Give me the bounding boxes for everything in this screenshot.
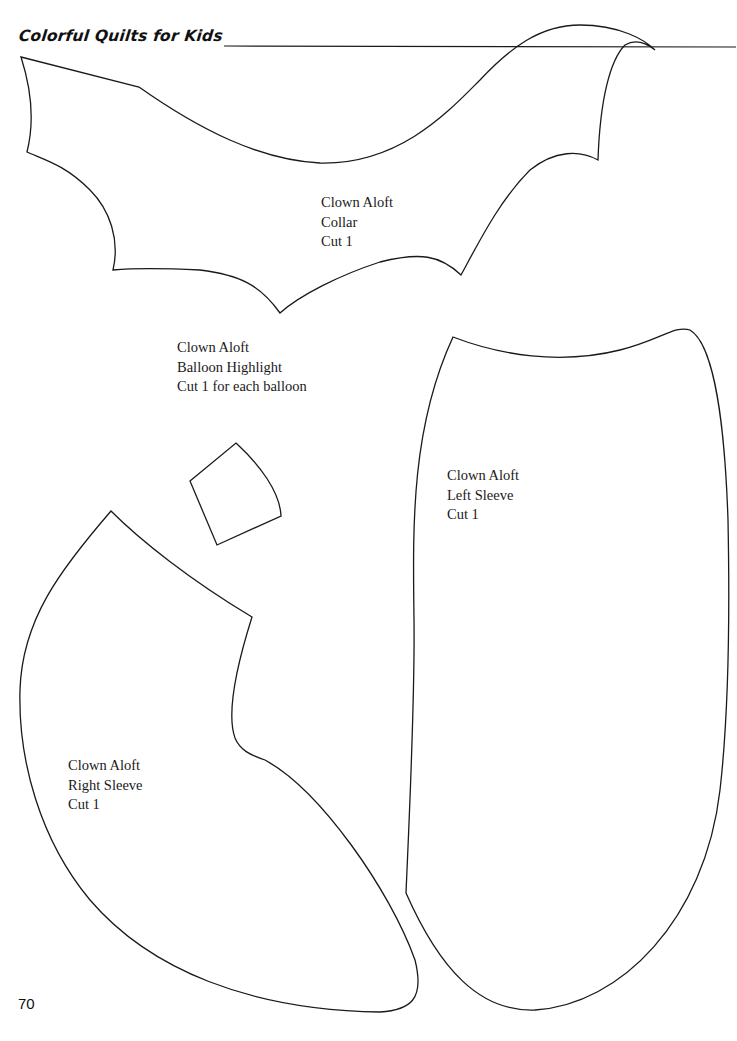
balloon-highlight-label-line-3: Cut 1 for each balloon [177,377,307,397]
balloon-highlight-label-line-2: Balloon Highlight [177,358,307,378]
left-sleeve-label-line-2: Left Sleeve [447,486,519,506]
right-sleeve-label: Clown Aloft Right Sleeve Cut 1 [68,756,143,815]
pattern-shapes [0,0,737,1041]
left-sleeve-pattern-outline [406,329,729,1010]
left-sleeve-label: Clown Aloft Left Sleeve Cut 1 [447,466,519,525]
left-sleeve-label-line-1: Clown Aloft [447,466,519,486]
left-sleeve-label-line-3: Cut 1 [447,505,519,525]
collar-label-line-2: Collar [321,213,393,233]
page-number: 70 [18,995,35,1012]
pattern-page: Colorful Quilts for Kids Clown Aloft Col… [0,0,737,1041]
collar-label: Clown Aloft Collar Cut 1 [321,193,393,252]
right-sleeve-label-line-1: Clown Aloft [68,756,143,776]
right-sleeve-label-line-2: Right Sleeve [68,776,143,796]
right-sleeve-label-line-3: Cut 1 [68,795,143,815]
balloon-highlight-label-line-1: Clown Aloft [177,338,307,358]
collar-label-line-1: Clown Aloft [321,193,393,213]
collar-label-line-3: Cut 1 [321,232,393,252]
header-rule [224,46,736,47]
balloon-highlight-pattern-outline [190,443,281,545]
balloon-highlight-label: Clown Aloft Balloon Highlight Cut 1 for … [177,338,307,397]
collar-pattern-outline [21,25,655,313]
